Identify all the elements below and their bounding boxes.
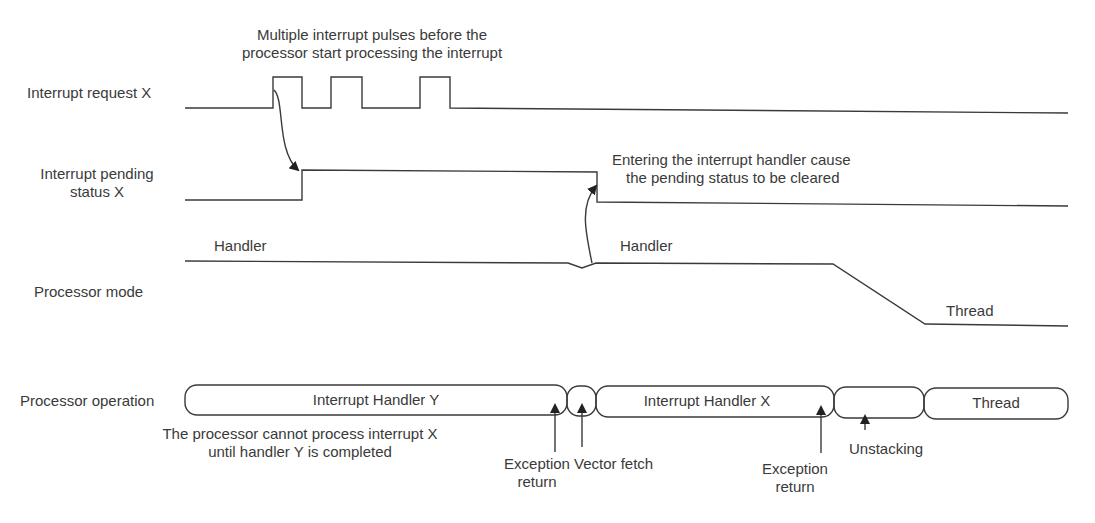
set-pending-arrow (274, 90, 298, 170)
clear-line1: Entering the interrupt handler cause (612, 151, 850, 169)
label-pending-line2: status X (32, 183, 162, 201)
mode-label-thread: Thread (946, 302, 994, 320)
box-label-handler-y: Interrupt Handler Y (185, 391, 567, 409)
label-interrupt-request: Interrupt request X (27, 84, 151, 102)
annotation-multiple-pulses: Multiple interrupt pulses before the pro… (222, 26, 522, 62)
exc-return2-line2: return (750, 478, 840, 496)
label-pending-line1: Interrupt pending (32, 165, 162, 183)
label-pending-status: Interrupt pending status X (32, 165, 162, 201)
request-waveform (185, 77, 1068, 113)
event-exception-return-1: Exception return (492, 455, 582, 491)
event-unstacking: Unstacking (849, 440, 923, 458)
cannot-line1: The processor cannot process interrupt X (150, 425, 450, 443)
event-vector-fetch: Vector fetch (574, 455, 653, 473)
label-processor-mode: Processor mode (34, 283, 143, 301)
exc-return1-line1: Exception (492, 455, 582, 473)
annotation-clear-pending: Entering the interrupt handler cause the… (612, 151, 850, 187)
mode-waveform (185, 261, 1068, 326)
exc-return1-line2: return (492, 473, 582, 491)
cannot-line2: until handler Y is completed (150, 443, 450, 461)
mode-label-handler-2: Handler (620, 237, 673, 255)
box-label-handler-x: Interrupt Handler X (596, 392, 818, 410)
pulses-line2: processor start processing the interrupt (222, 44, 522, 62)
pulses-line1: Multiple interrupt pulses before the (222, 26, 522, 44)
clear-pending-arrow (585, 186, 596, 263)
box-unstacking (834, 387, 924, 418)
annotation-cannot-process: The processor cannot process interrupt X… (150, 425, 450, 461)
label-processor-operation: Processor operation (20, 392, 154, 410)
mode-label-handler-1: Handler (214, 237, 267, 255)
box-label-thread: Thread (924, 394, 1068, 412)
clear-line2: the pending status to be cleared (612, 169, 850, 187)
exc-return2-line1: Exception (750, 460, 840, 478)
event-exception-return-2: Exception return (750, 460, 840, 496)
